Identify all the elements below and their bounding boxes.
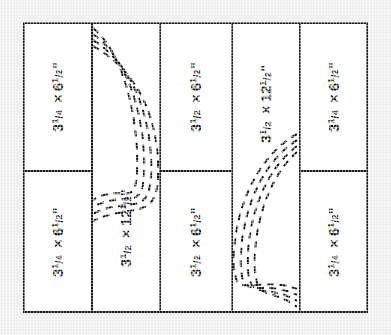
arc-col4-2 xyxy=(248,146,297,301)
arc-group-column4 xyxy=(234,134,297,307)
arc-col2-1 xyxy=(93,28,137,200)
dashed-arcs-layer xyxy=(25,24,366,311)
arc-col4-4 xyxy=(234,134,297,289)
arc-group-svg xyxy=(25,24,366,311)
arc-group-column2 xyxy=(93,28,158,221)
cut-layout-diagram: 31/4 × 61/2" 31/4 × 61/2" 31/2 × 121/2" … xyxy=(23,22,368,313)
